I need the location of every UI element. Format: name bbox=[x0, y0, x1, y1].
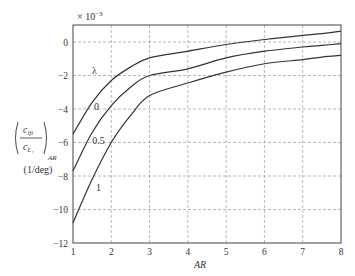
numerator: clβ bbox=[23, 124, 33, 137]
plot-frame bbox=[73, 25, 341, 243]
x-tick-labels: 12345678 bbox=[71, 247, 344, 257]
curve-lambda-0 bbox=[73, 31, 341, 134]
y-tick-label: 0 bbox=[63, 38, 68, 48]
y-axis-fraction: clβ cL₁ AR bbox=[10, 118, 66, 162]
y-tick-label: −12 bbox=[53, 239, 68, 249]
curve-lambda-0-5 bbox=[73, 44, 341, 171]
y-tick-label: −10 bbox=[53, 205, 68, 215]
curve-label: 1 bbox=[96, 182, 101, 193]
subscript-ar: AR bbox=[47, 154, 57, 162]
x-axis-label: AR bbox=[193, 259, 206, 270]
x-tick-label: 6 bbox=[262, 247, 267, 257]
data-series bbox=[73, 31, 341, 223]
curve-labels: 00.51 bbox=[92, 101, 105, 193]
x-tick-label: 8 bbox=[339, 247, 344, 257]
x-tick-label: 3 bbox=[147, 247, 152, 257]
y-axis-label: clβ cL₁ AR (1/deg) bbox=[10, 118, 66, 175]
x-tick-label: 2 bbox=[109, 247, 114, 257]
y-axis-units: (1/deg) bbox=[10, 164, 66, 175]
y-tick-label: −2 bbox=[58, 71, 68, 81]
y-tick-label: −4 bbox=[58, 105, 68, 115]
x-tick-label: 7 bbox=[300, 247, 305, 257]
denominator: cL₁ bbox=[23, 141, 34, 154]
x-tick-label: 4 bbox=[185, 247, 190, 257]
x-tick-label: 1 bbox=[71, 247, 76, 257]
x-tick-label: 5 bbox=[224, 247, 229, 257]
curve-lambda-1 bbox=[73, 55, 341, 223]
axis-multiplier: × 10−3 bbox=[77, 10, 103, 22]
grid-lines bbox=[73, 25, 341, 243]
legend-title-lambda: λ bbox=[92, 65, 97, 76]
curve-label: 0.5 bbox=[92, 135, 105, 146]
right-paren bbox=[44, 122, 47, 154]
left-paren bbox=[16, 122, 19, 154]
curve-label: 0 bbox=[94, 101, 99, 112]
